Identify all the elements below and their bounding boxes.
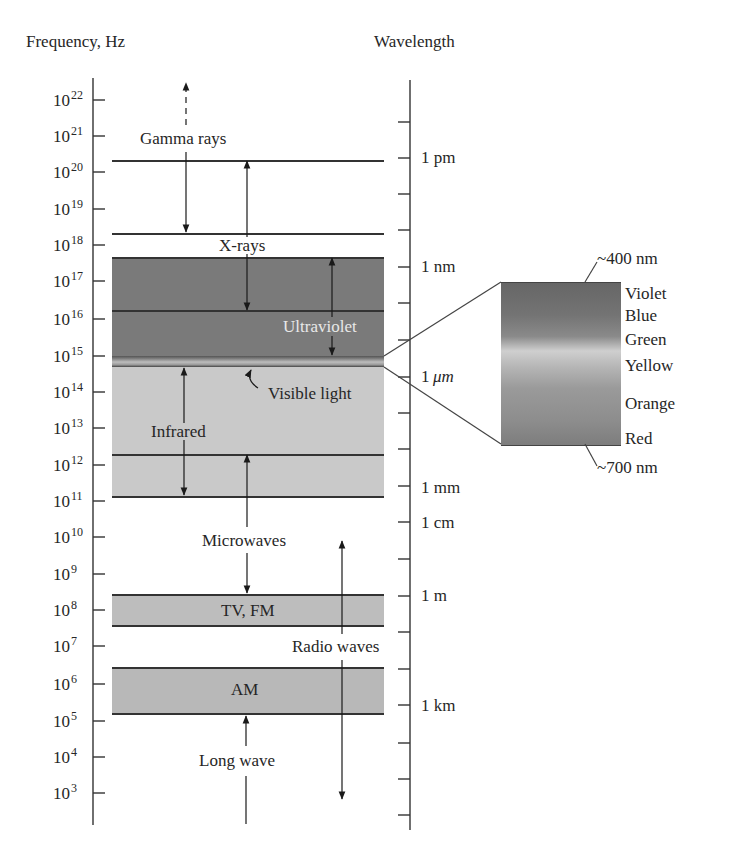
region-label-gamma: Gamma rays <box>137 130 229 147</box>
freq-tick-8: 108 <box>53 602 77 619</box>
region-label-infrared: Infrared <box>149 423 208 440</box>
wavelength-label-um: 1 μm <box>421 368 454 385</box>
region-label-visible-light: Visible light <box>268 385 352 402</box>
wavelength-label-km: 1 km <box>421 697 455 714</box>
freq-tick-10: 1010 <box>53 529 83 546</box>
diagram-lines <box>0 0 733 866</box>
region-label-xray: X-rays <box>219 237 265 254</box>
spectrum-connectors <box>384 262 597 466</box>
spectrum-700nm-label: ~700 nm <box>597 459 658 476</box>
freq-tick-6: 106 <box>53 676 77 693</box>
freq-tick-18: 1018 <box>53 237 83 254</box>
spectrum-color-green: Green <box>625 331 667 348</box>
spectrum-color-orange: Orange <box>625 395 675 412</box>
freq-tick-9: 109 <box>53 566 77 583</box>
wavelength-label-nm: 1 nm <box>421 258 455 275</box>
freq-tick-20: 1020 <box>53 164 83 181</box>
spectrum-color-red: Red <box>625 430 652 447</box>
freq-tick-3: 103 <box>53 785 77 802</box>
visible-light-pointer <box>250 370 258 388</box>
freq-tick-22: 1022 <box>53 92 83 109</box>
freq-tick-4: 104 <box>53 749 77 766</box>
freq-tick-12: 1012 <box>53 457 83 474</box>
freq-tick-13: 1013 <box>53 420 83 437</box>
spectrum-400nm-label: ~400 nm <box>597 250 658 267</box>
freq-tick-19: 1019 <box>53 201 83 218</box>
region-label-microwaves: Microwaves <box>200 532 288 549</box>
region-label-long-wave: Long wave <box>197 752 277 769</box>
freq-tick-11: 1011 <box>53 493 83 510</box>
frequency-axis <box>93 78 105 825</box>
freq-tick-5: 105 <box>53 713 77 730</box>
region-label-ultraviolet: Ultraviolet <box>283 318 357 335</box>
spectrum-color-blue: Blue <box>625 307 657 324</box>
wavelength-label-m: 1 m <box>421 587 447 604</box>
freq-tick-17: 1017 <box>53 273 83 290</box>
region-label-tv-fm: TV, FM <box>221 602 275 619</box>
freq-tick-21: 1021 <box>53 128 83 145</box>
region-label-am: AM <box>231 681 258 698</box>
wavelength-label-pm: 1 pm <box>421 149 455 166</box>
spectrum-color-yellow: Yellow <box>625 357 673 374</box>
freq-tick-7: 107 <box>53 638 77 655</box>
wavelength-axis <box>398 80 410 830</box>
wavelength-label-cm: 1 cm <box>421 514 455 531</box>
wavelength-label-mm: 1 mm <box>421 479 460 496</box>
region-label-radio-waves: Radio waves <box>290 638 381 655</box>
freq-tick-16: 1016 <box>53 311 83 328</box>
freq-tick-14: 1014 <box>53 384 83 401</box>
freq-tick-15: 1015 <box>53 348 83 365</box>
spectrum-color-violet: Violet <box>625 285 666 302</box>
